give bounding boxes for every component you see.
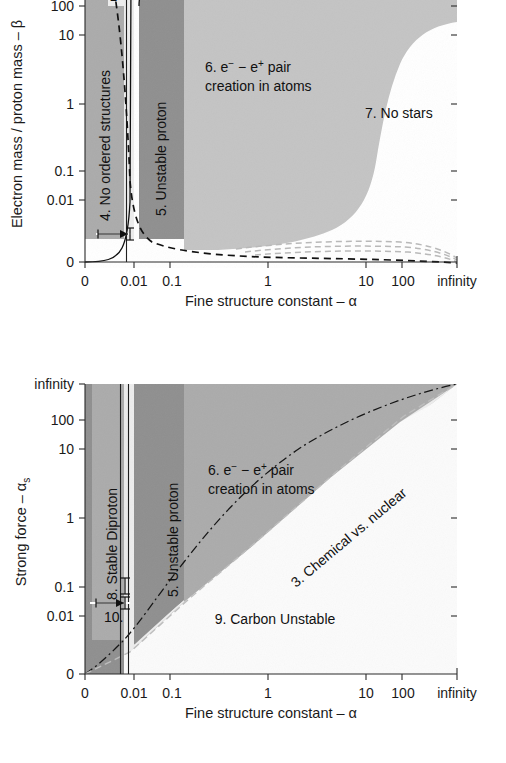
bottom-xaxis-title-prefix: Fine structure constant – (185, 705, 349, 721)
top-yaxis-title: Electron mass / proton mass – β (9, 20, 25, 228)
bottom-ytick-0: 0 (66, 666, 74, 682)
top-xtick-100: 100 (391, 273, 415, 289)
bottom-xtick-0.01: 0.01 (120, 685, 147, 701)
bottom-ytick-infinity: infinity (34, 376, 74, 392)
top-ytick-100: 100 (51, 0, 75, 14)
top-xaxis-title: Fine structure constant – α (185, 293, 357, 309)
bottom-ytick-100: 100 (51, 412, 75, 428)
bottom-xtick-infinity: infinity (437, 685, 477, 701)
r6t-suffix: pair (264, 59, 292, 75)
top-xtick-0.01: 0.01 (120, 273, 147, 289)
top-region-5-label: 5. Unstable proton (153, 102, 169, 216)
bottom-xtick-1: 1 (264, 685, 272, 701)
bottom-yaxis-title-symbol: α (13, 483, 29, 491)
top-xtick-infinity: infinity (437, 273, 477, 289)
r6b-mid: − e (237, 462, 261, 478)
top-region-6-label-line2: creation in atoms (205, 78, 312, 94)
top-ytick-1: 1 (66, 96, 74, 112)
bottom-region-8-label: 8. Stable Diproton (104, 488, 120, 600)
bottom-y-tickmarks (79, 384, 85, 674)
bottom-xtick-10: 10 (358, 685, 374, 701)
r6b-suffix: pair (267, 462, 295, 478)
bottom-ytick-10: 10 (58, 441, 74, 457)
top-xtick-0.1: 0.1 (162, 273, 182, 289)
top-ytick-0.1: 0.1 (55, 163, 75, 179)
chart-panel-top: 100 10 1 0.1 0.01 0 0 0.01 0.1 1 10 100 … (0, 0, 506, 320)
top-numeral-2: 2 (110, 0, 117, 4)
bottom-xaxis-title-symbol: α (349, 705, 357, 721)
r6t-prefix: 6. e (205, 59, 229, 75)
bottom-region-9-label: 9. Carbon Unstable (215, 611, 336, 627)
top-region-6-label-line1: 6. e− − e+ pair (205, 58, 291, 75)
bottom-region-6-label-line1: 6. e− − e+ pair (208, 461, 294, 478)
top-xaxis-title-prefix: Fine structure constant – (185, 293, 349, 309)
bottom-yaxis-title-prefix: Strong force – (13, 491, 29, 586)
bottom-ytick-1: 1 (66, 510, 74, 526)
top-region-4-label: 4. No ordered structures (97, 70, 113, 221)
bottom-xtick-0.1: 0.1 (162, 685, 182, 701)
two-panel-parameter-space-figure: 100 10 1 0.1 0.01 0 0 0.01 0.1 1 10 100 … (0, 0, 506, 763)
bottom-region-5-label: 5. Unstable proton (165, 483, 181, 597)
top-region-7-label: 7. No stars (365, 105, 433, 121)
r6b-prefix: 6. e (208, 462, 232, 478)
bottom-region-6-label-line2: creation in atoms (208, 481, 315, 497)
top-numeral-1: 1 (97, 0, 104, 2)
r6t-mid: − e (234, 59, 258, 75)
bottom-y-tickmarks-right (451, 420, 457, 616)
bottom-xaxis-title: Fine structure constant – α (185, 705, 357, 721)
top-ytick-0: 0 (66, 254, 74, 270)
top-chart-svg: 100 10 1 0.1 0.01 0 0 0.01 0.1 1 10 100 … (0, 0, 506, 320)
top-xtick-0: 0 (81, 273, 89, 289)
top-y-tickmarks (79, 6, 85, 262)
chart-panel-bottom: infinity 100 10 1 0.1 0.01 0 0 0.01 0.1 … (0, 352, 506, 763)
bottom-yaxis-title: Strong force – αs (13, 478, 32, 587)
top-ytick-10: 10 (58, 27, 74, 43)
bottom-region-10-label: 10. (104, 609, 123, 625)
top-numeral-3: 3 (124, 0, 131, 3)
bottom-xtick-100: 100 (391, 685, 415, 701)
top-xtick-10: 10 (358, 273, 374, 289)
top-xaxis-title-symbol: α (349, 293, 357, 309)
bottom-chart-svg: infinity 100 10 1 0.1 0.01 0 0 0.01 0.1 … (0, 352, 506, 763)
bottom-yaxis-title-subscript: s (21, 478, 32, 483)
top-xtick-1: 1 (264, 273, 272, 289)
bottom-ytick-0.01: 0.01 (47, 608, 74, 624)
top-ytick-0.01: 0.01 (47, 192, 74, 208)
bottom-ytick-0.1: 0.1 (55, 579, 75, 595)
bottom-xtick-0: 0 (81, 685, 89, 701)
